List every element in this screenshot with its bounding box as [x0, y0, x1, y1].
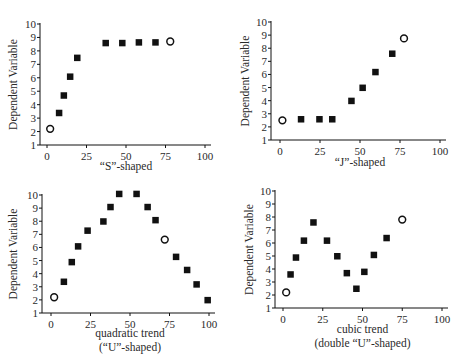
x-axis-title-line2: (double “U”-shaped) — [314, 337, 410, 350]
data-point-filled-square — [293, 254, 300, 260]
y-tick-label: 1 — [33, 307, 39, 319]
y-tick-label: 8 — [266, 211, 272, 223]
y-tick-label: 3 — [262, 108, 268, 120]
data-point-filled-square — [348, 98, 355, 105]
y-tick-label: 6 — [266, 237, 272, 249]
x-tick-label: 100 — [434, 313, 451, 325]
data-point-filled-square — [359, 85, 366, 92]
y-tick-label: 10 — [25, 18, 37, 30]
data-point-filled-square — [61, 92, 67, 99]
y-tick-label: 5 — [262, 82, 268, 94]
x-tick-label: 75 — [397, 313, 409, 325]
x-tick-label: 0 — [48, 318, 54, 330]
y-tick-label: 7 — [262, 55, 268, 67]
data-point-filled-square — [119, 40, 126, 47]
y-tick-label: 6 — [31, 72, 37, 84]
data-point-filled-square — [316, 116, 323, 123]
y-tick-label: 7 — [31, 58, 37, 70]
data-point-filled-square — [56, 110, 63, 117]
y-tick-label: 6 — [33, 241, 39, 253]
data-point-filled-square — [67, 73, 74, 80]
y-tick-label: 8 — [31, 45, 37, 57]
data-point-filled-square — [329, 116, 336, 123]
data-point-filled-square — [61, 279, 68, 286]
y-tick-label: 5 — [31, 85, 37, 97]
y-tick-label: 5 — [33, 255, 39, 267]
data-point-filled-square — [324, 237, 331, 244]
y-tick-label: 3 — [33, 281, 39, 293]
data-point-open-circle — [51, 294, 58, 301]
data-point-open-circle — [283, 289, 290, 296]
data-point-filled-square — [383, 235, 390, 242]
y-tick-label: 10 — [27, 189, 39, 201]
x-tick-label: 0 — [277, 145, 283, 157]
data-point-filled-square — [334, 253, 341, 260]
data-point-filled-square — [344, 270, 351, 277]
data-point-filled-square — [100, 218, 107, 225]
data-point-open-circle — [399, 216, 406, 223]
y-axis-title: Dependent Variable — [239, 36, 252, 127]
data-point-filled-square — [173, 254, 180, 261]
x-tick-label: 0 — [280, 313, 286, 325]
data-point-filled-square — [298, 116, 305, 123]
y-tick-label: 4 — [262, 95, 268, 107]
data-point-open-circle — [401, 35, 408, 42]
y-tick-label: 7 — [266, 224, 272, 236]
data-point-filled-square — [69, 259, 76, 266]
y-tick-label: 9 — [266, 198, 272, 210]
x-tick-label: 25 — [81, 150, 93, 162]
data-point-filled-square — [287, 271, 294, 278]
plot-panel-s-shaped: 123456789100255075100Dependent Variable“… — [7, 18, 214, 173]
x-axis-title: “J”-shaped — [335, 156, 386, 169]
plot-panel-quadratic: 123456789100255075100Dependent Variableq… — [7, 189, 218, 354]
y-tick-label: 3 — [266, 276, 272, 288]
data-point-filled-square — [184, 267, 191, 274]
y-tick-label: 8 — [33, 215, 39, 227]
x-tick-label: 100 — [197, 150, 214, 162]
y-tick-label: 7 — [33, 228, 39, 240]
y-tick-label: 2 — [33, 294, 39, 306]
x-tick-label: 75 — [164, 318, 176, 330]
data-point-filled-square — [152, 39, 159, 46]
x-axis-title: quadratic trend — [95, 327, 165, 340]
figure-trend-shapes: 123456789100255075100Dependent Variable“… — [0, 0, 460, 364]
data-point-filled-square — [389, 50, 396, 57]
y-tick-label: 10 — [260, 185, 272, 197]
data-point-filled-square — [75, 243, 82, 250]
data-point-filled-square — [136, 39, 143, 46]
data-point-filled-square — [116, 191, 123, 198]
y-tick-label: 2 — [266, 289, 272, 301]
x-tick-label: 25 — [315, 145, 327, 157]
y-axis-title: Dependent Variable — [243, 204, 256, 295]
data-point-filled-square — [74, 55, 81, 62]
y-tick-label: 10 — [256, 16, 268, 28]
data-point-open-circle — [161, 236, 168, 243]
data-point-open-circle — [279, 117, 286, 124]
y-tick-label: 8 — [262, 42, 268, 54]
data-point-filled-square — [152, 217, 159, 224]
data-point-filled-square — [353, 286, 360, 293]
data-point-filled-square — [133, 191, 140, 198]
x-tick-label: 100 — [432, 145, 449, 157]
data-point-filled-square — [144, 204, 151, 211]
y-tick-label: 2 — [262, 121, 268, 133]
plot-panel-j-shaped: 123456789100255075100Dependent Variable“… — [239, 16, 449, 169]
data-point-filled-square — [102, 40, 109, 47]
data-point-filled-square — [361, 269, 368, 276]
y-tick-label: 2 — [31, 126, 37, 138]
y-tick-label: 9 — [31, 31, 37, 43]
x-tick-label: 100 — [201, 318, 218, 330]
y-tick-label: 3 — [31, 112, 37, 124]
plot-panel-cubic: 123456789100255075100Dependent Variablec… — [243, 185, 451, 350]
data-point-filled-square — [84, 227, 91, 234]
data-point-filled-square — [301, 237, 308, 244]
y-tick-label: 9 — [33, 202, 39, 214]
y-tick-label: 4 — [266, 263, 272, 275]
y-tick-label: 5 — [266, 250, 272, 262]
data-point-filled-square — [372, 69, 379, 76]
y-tick-label: 4 — [33, 268, 39, 280]
data-point-filled-square — [193, 281, 200, 288]
x-tick-label: 75 — [395, 145, 407, 157]
x-tick-label: 0 — [44, 150, 50, 162]
data-point-open-circle — [47, 125, 54, 132]
